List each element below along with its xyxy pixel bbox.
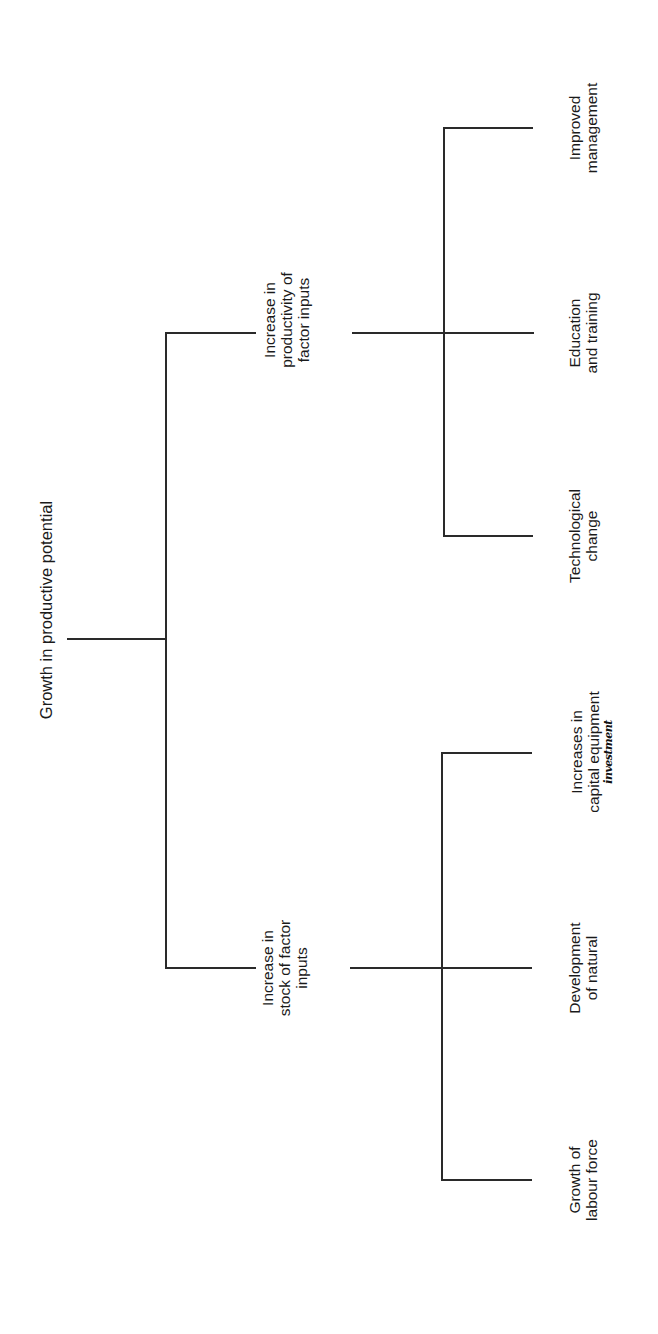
leaf-development-of-natural: Development of natural — [566, 922, 600, 1013]
line-2: management — [583, 83, 600, 173]
leaf-education-and-training: Education and training — [566, 292, 600, 373]
line-2: capital equipment — [585, 691, 602, 813]
line-1: Increase in — [259, 920, 276, 1016]
leaf-technological-change: Technological change — [566, 489, 600, 583]
root-connector-line — [67, 638, 167, 640]
line-3: inputs — [293, 920, 310, 1016]
lower-subtree-bottom-arm — [441, 1179, 532, 1181]
line-1: Increases in — [568, 691, 585, 813]
upper-branch-line — [165, 332, 256, 334]
node-productivity-of-factor-inputs: Increase in productivity of factor input… — [261, 272, 312, 368]
leaf-growth-of-labour-force: Growth of labour force — [566, 1139, 600, 1221]
line-2: change — [583, 489, 600, 583]
line-1: Technological — [566, 489, 583, 583]
line-1: Improved — [566, 83, 583, 173]
main-trunk-line — [165, 332, 167, 969]
lower-subtree-top-arm — [441, 752, 532, 754]
line-2: stock of factor — [276, 920, 293, 1016]
line-2: of natural — [583, 922, 600, 1013]
line-1: Growth of — [566, 1139, 583, 1221]
upper-subtree-bottom-arm — [443, 535, 533, 537]
leaf-improved-management: Improved management — [566, 83, 600, 173]
line-2: labour force — [583, 1139, 600, 1221]
line-1: Education — [566, 292, 583, 373]
line-3: factor inputs — [295, 272, 312, 368]
line-1: Development — [566, 922, 583, 1013]
node-stock-of-factor-inputs: Increase in stock of factor inputs — [259, 920, 310, 1016]
lower-subtree-spine — [441, 752, 443, 1181]
handwritten-annotation: investment — [602, 691, 615, 813]
root-label-text: Growth in productive potential — [38, 501, 55, 719]
leaf-capital-equipment: Increases in capital equipment investmen… — [568, 691, 615, 813]
lower-branch-line — [165, 967, 256, 969]
upper-subtree-top-arm — [443, 127, 533, 129]
line-2: productivity of — [278, 272, 295, 368]
line-2: and training — [583, 292, 600, 373]
line-1: Increase in — [261, 272, 278, 368]
root-node-label: Growth in productive potential — [38, 501, 55, 719]
upper-subtree-spine — [443, 127, 445, 537]
